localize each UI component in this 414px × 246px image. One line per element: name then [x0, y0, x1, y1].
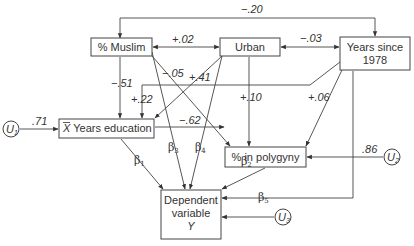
path-diagram: % Muslim Urban Years since 1978 X Years …	[0, 0, 414, 246]
coef-urban-polygyny: +.10	[240, 91, 263, 103]
beta-3: β3	[168, 141, 179, 155]
node-dependent-variable: Dependent variable Y	[161, 190, 221, 239]
node-dependent-label-1: Dependent	[164, 194, 218, 206]
node-years-since-1978: Years since 1978	[340, 37, 410, 70]
node-years-label-1: Years since	[347, 41, 403, 53]
coef-urban-years: −.03	[300, 32, 323, 44]
node-urban: Urban	[220, 38, 280, 56]
beta-1: β1	[134, 154, 145, 168]
error-u3: U3	[275, 209, 291, 225]
arrow-muslim-years	[120, 18, 375, 38]
arrow-polygyny-dependent	[222, 168, 265, 189]
arrow-urban-education	[155, 56, 222, 118]
coef-urban-education: +.41	[189, 71, 211, 83]
coef-muslim-urban: +.02	[172, 33, 194, 45]
node-dependent-label-2: variable	[172, 207, 211, 219]
coef-muslim-education: −.51	[111, 77, 133, 89]
node-urban-label: Urban	[235, 41, 265, 53]
coef-years-polygyny: +.06	[308, 91, 331, 103]
coef-muslim-polygyny: −.05	[162, 67, 185, 79]
arrow-years-polygyny	[306, 70, 342, 146]
beta-5: β5	[258, 191, 269, 205]
node-education-label: X Years education	[62, 122, 152, 134]
node-muslim: % Muslim	[91, 38, 152, 56]
node-polygyny: % in polygyny	[225, 147, 306, 167]
node-dependent-label-3: Y	[187, 220, 195, 232]
coef-u1-education: .71	[32, 115, 47, 127]
beta-4: β4	[195, 141, 206, 155]
coef-u2-polygyny: .86	[362, 143, 378, 155]
node-education: X Years education	[59, 119, 154, 138]
coef-years-education: +.22	[131, 93, 153, 105]
error-u1: U1	[3, 121, 19, 137]
node-years-label-2: 1978	[363, 54, 387, 66]
coef-muslim-years: −.20	[241, 3, 264, 15]
coef-education-polygyny: −.62	[179, 114, 201, 126]
error-u2: U2	[384, 149, 400, 165]
node-muslim-label: % Muslim	[98, 41, 146, 53]
